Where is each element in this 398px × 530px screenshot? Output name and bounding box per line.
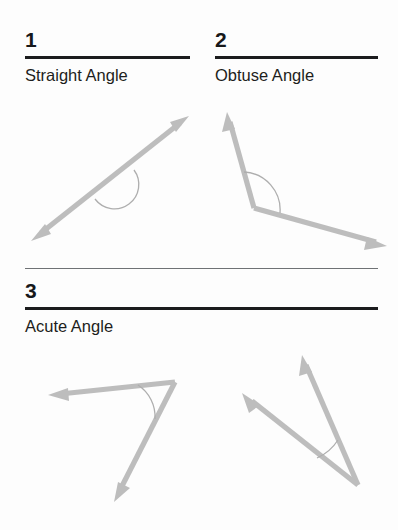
- section-rule-2: [215, 56, 378, 59]
- acute-angle-left-svg: [10, 350, 200, 530]
- section-label-wrap-2: Obtuse Angle: [215, 66, 378, 84]
- acute-left-ray-diagonal: [120, 382, 175, 490]
- section-number-wrap-2: 2: [215, 29, 378, 55]
- section-rule-3: [25, 307, 378, 310]
- straight-angle-svg: [0, 100, 200, 260]
- straight-angle-ray: [41, 123, 180, 233]
- acute-angle-diagram-left: [10, 350, 200, 530]
- straight-angle-diagram: [0, 100, 200, 260]
- section-label-3: Acute Angle: [25, 317, 378, 335]
- section-rule-wrap-1: [25, 56, 190, 59]
- arrowhead-left-icon: [48, 388, 69, 401]
- section-rule-1: [25, 56, 190, 59]
- section-rule-wrap-3: [25, 307, 378, 310]
- section-number-1: 1: [25, 29, 190, 50]
- section-number-2: 2: [215, 29, 378, 50]
- mid-page-divider-rule: [25, 268, 378, 269]
- acute-left-arc: [138, 385, 155, 419]
- obtuse-angle-svg: [198, 100, 398, 265]
- section-header-1: 1 Straight Angle: [25, 29, 190, 84]
- obtuse-angle-ray-upper: [230, 122, 254, 208]
- section-header-3: 3 Acute Angle: [25, 280, 378, 335]
- section-number-wrap-3: 3: [25, 280, 378, 306]
- mid-page-divider: [25, 268, 378, 269]
- section-label-2: Obtuse Angle: [215, 66, 378, 84]
- obtuse-angle-diagram: [198, 100, 398, 265]
- section-label-wrap-3: Acute Angle: [25, 317, 378, 335]
- arrowhead-upper-left-icon: [222, 112, 235, 132]
- section-header-2: 2 Obtuse Angle: [215, 29, 378, 84]
- acute-angle-right-svg: [205, 345, 398, 530]
- worksheet-page: 1 Straight Angle 2 Obtuse Angle: [0, 0, 398, 530]
- section-label-1: Straight Angle: [25, 66, 190, 84]
- acute-angle-diagram-right: [205, 345, 398, 530]
- acute-left-ray-horizontal: [60, 382, 175, 394]
- arrowhead-lower-right-icon: [364, 237, 387, 250]
- arrowhead-bottom-icon: [114, 482, 130, 502]
- section-number-wrap-1: 1: [25, 29, 190, 55]
- section-label-wrap-1: Straight Angle: [25, 66, 190, 84]
- section-number-3: 3: [25, 280, 378, 301]
- obtuse-angle-ray-lower: [254, 208, 376, 242]
- section-rule-wrap-2: [215, 56, 378, 59]
